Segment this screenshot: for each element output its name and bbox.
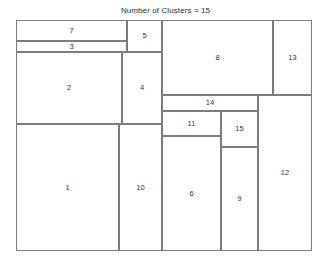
treemap-cell[interactable]: 3 bbox=[16, 41, 127, 52]
treemap-cell-label: 1 bbox=[17, 184, 118, 192]
treemap-plot-area: 735241108131411156912 bbox=[17, 21, 313, 252]
treemap-cell-label: 4 bbox=[123, 84, 161, 92]
treemap-cell-label: 7 bbox=[17, 27, 126, 35]
treemap-cell[interactable]: 10 bbox=[119, 124, 162, 251]
treemap-cell-label: 6 bbox=[163, 190, 220, 198]
treemap-cell-label: 15 bbox=[222, 125, 257, 133]
treemap-cell-label: 14 bbox=[163, 99, 257, 107]
treemap-cell-label: 8 bbox=[163, 54, 272, 62]
treemap-cell-label: 9 bbox=[222, 195, 257, 203]
treemap-cell[interactable]: 7 bbox=[16, 20, 127, 41]
treemap-cell-label: 12 bbox=[259, 169, 311, 177]
chart-title: Number of Clusters = 15 bbox=[0, 6, 331, 15]
treemap-cell[interactable]: 9 bbox=[221, 147, 258, 251]
treemap-cell-label: 13 bbox=[274, 54, 311, 62]
treemap-cell[interactable]: 1 bbox=[16, 124, 119, 251]
treemap-cell[interactable]: 6 bbox=[162, 136, 221, 251]
treemap-cell[interactable]: 5 bbox=[127, 20, 162, 52]
treemap-cell-label: 5 bbox=[128, 32, 161, 40]
treemap-cell-label: 2 bbox=[17, 84, 121, 92]
treemap-figure: Number of Clusters = 15 7352411081314111… bbox=[0, 0, 331, 274]
treemap-cell[interactable]: 8 bbox=[162, 20, 273, 95]
treemap-cell-label: 11 bbox=[163, 120, 220, 128]
treemap-cell-label: 3 bbox=[17, 43, 126, 51]
treemap-cell[interactable]: 13 bbox=[273, 20, 312, 95]
treemap-cell[interactable]: 11 bbox=[162, 111, 221, 136]
treemap-cell[interactable]: 2 bbox=[16, 52, 122, 124]
treemap-cell[interactable]: 15 bbox=[221, 111, 258, 147]
treemap-cell-label: 10 bbox=[120, 184, 161, 192]
treemap-cell[interactable]: 12 bbox=[258, 95, 312, 251]
treemap-cell[interactable]: 14 bbox=[162, 95, 258, 111]
treemap-cell[interactable]: 4 bbox=[122, 52, 162, 124]
